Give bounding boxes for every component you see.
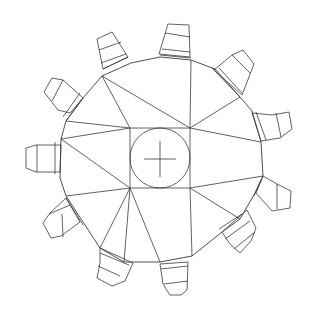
gear-tooth-10 [26, 142, 61, 174]
gear-tooth-1 [97, 32, 128, 69]
gear-tooth-4 [252, 112, 292, 141]
gear-tooth-9 [43, 198, 83, 238]
crosshair-icon [144, 141, 176, 177]
gear-tooth-6 [219, 210, 256, 253]
gear-tooth-7 [160, 262, 188, 295]
gear-tooth-5 [254, 176, 291, 211]
gear-tooth-2 [159, 24, 191, 58]
gear-diagram: gear-line-drawing [0, 0, 310, 314]
hub-triangulation [61, 60, 263, 262]
gear-tooth-8 [97, 248, 133, 286]
gear-tooth-11 [44, 78, 83, 121]
gear-tooth-3 [212, 50, 254, 97]
